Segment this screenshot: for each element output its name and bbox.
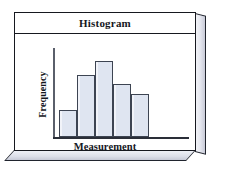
x-axis-line bbox=[53, 137, 189, 139]
y-axis-label: Frequency bbox=[36, 60, 49, 130]
x-axis-label: Measurement bbox=[15, 141, 195, 152]
histogram-bar bbox=[131, 94, 149, 137]
title-bar: Histogram bbox=[15, 13, 195, 34]
histogram-bar bbox=[113, 84, 131, 137]
bar-series bbox=[59, 48, 149, 137]
y-axis-line bbox=[53, 48, 55, 137]
histogram-figure: Histogram Frequency Measurement bbox=[0, 0, 225, 171]
histogram-bar bbox=[59, 110, 77, 137]
chart-title: Histogram bbox=[79, 17, 131, 29]
histogram-bar bbox=[95, 61, 113, 137]
histogram-bar bbox=[77, 75, 95, 137]
figure-panel: Histogram Frequency Measurement bbox=[14, 12, 196, 151]
box-right-face bbox=[195, 13, 206, 155]
plot-area: Frequency Measurement bbox=[15, 34, 195, 150]
